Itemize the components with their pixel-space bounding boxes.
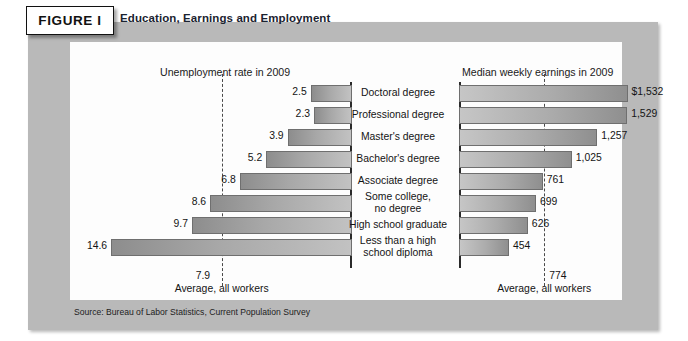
unemployment-bar-row: 14.6	[70, 238, 360, 258]
unemployment-bar-row: 5.2	[70, 150, 360, 170]
category-label: Associate degree	[338, 175, 458, 187]
earnings-value-label: 454	[513, 240, 530, 251]
category-label: Some college,no degree	[338, 191, 458, 214]
category-label: High school graduate	[338, 219, 458, 231]
earnings-bar	[459, 107, 627, 124]
unemployment-value-label: 8.6	[192, 196, 206, 207]
earnings-bar-row: 761	[450, 172, 688, 192]
unemployment-bar	[210, 195, 352, 212]
earnings-bar	[459, 129, 597, 146]
unemployment-value-label: 5.2	[248, 152, 262, 163]
earnings-bar-row: 626	[450, 216, 688, 236]
unemployment-value-label: 2.3	[296, 108, 310, 119]
earnings-value-label: $1,532	[632, 86, 664, 97]
category-label-column: Doctoral degreeProfessional degreeMaster…	[338, 82, 458, 268]
unemployment-value-label: 2.5	[292, 86, 306, 97]
category-label: Less than a highschool diploma	[338, 235, 458, 258]
earnings-bar-row: 1,257	[450, 128, 688, 148]
earnings-bar-row: 454	[450, 238, 688, 258]
unemployment-value-label: 9.7	[174, 218, 188, 229]
earnings-bar-row: 1,025	[450, 150, 688, 170]
category-label: Bachelor's degree	[338, 153, 458, 165]
category-label: Professional degree	[338, 109, 458, 121]
unemployment-bar-row: 3.9	[70, 128, 360, 148]
category-label: Doctoral degree	[338, 87, 458, 99]
left-average-caption: Average, all workers	[142, 283, 302, 294]
category-label: Master's degree	[338, 131, 458, 143]
unemployment-bar-row: 6.8	[70, 172, 360, 192]
unemployment-bar	[240, 173, 352, 190]
earnings-bar-row: 1,529	[450, 106, 688, 126]
unemployment-value-label: 14.6	[87, 240, 107, 251]
unemployment-value-label: 3.9	[269, 130, 283, 141]
earnings-value-label: 1,529	[631, 108, 657, 119]
left-average-value: 7.9	[196, 270, 210, 281]
earnings-bar-row: $1,532	[450, 84, 688, 104]
right-chart-header: Median weekly earnings in 2009	[462, 66, 613, 78]
earnings-bar	[459, 173, 543, 190]
earnings-bar	[459, 151, 572, 168]
unemployment-bar	[192, 217, 352, 234]
left-chart-header: Unemployment rate in 2009	[160, 66, 290, 78]
earnings-bar	[459, 85, 628, 102]
unemployment-bar-row: 2.3	[70, 106, 360, 126]
earnings-value-label: 761	[547, 174, 564, 185]
unemployment-chart: 2.52.33.95.26.88.69.714.6	[70, 82, 360, 268]
figure-title: Education, Earnings and Employment	[120, 12, 330, 24]
earnings-value-label: 699	[540, 196, 557, 207]
unemployment-bar-row: 2.5	[70, 84, 360, 104]
figure-badge-label: FIGURE I	[38, 13, 101, 28]
earnings-bar	[459, 195, 536, 212]
unemployment-value-label: 6.8	[221, 174, 235, 185]
chart-card: Unemployment rate in 2009 Median weekly …	[70, 42, 622, 300]
earnings-chart: $1,5321,5291,2571,025761699626454	[450, 82, 688, 268]
earnings-bar-row: 699	[450, 194, 688, 214]
right-average-value: 774	[549, 270, 566, 281]
figure-badge: FIGURE I	[26, 6, 114, 35]
unemployment-bar	[111, 239, 352, 256]
earnings-value-label: 1,257	[601, 130, 627, 141]
unemployment-bar-row: 9.7	[70, 216, 360, 236]
earnings-bar	[459, 239, 509, 256]
unemployment-bar-row: 8.6	[70, 194, 360, 214]
right-average-caption: Average, all workers	[464, 283, 624, 294]
source-note: Source: Bureau of Labor Statistics, Curr…	[74, 307, 310, 317]
earnings-value-label: 1,025	[576, 152, 602, 163]
earnings-value-label: 626	[532, 218, 549, 229]
earnings-bar	[459, 217, 528, 234]
figure-panel: Unemployment rate in 2009 Median weekly …	[28, 22, 658, 330]
